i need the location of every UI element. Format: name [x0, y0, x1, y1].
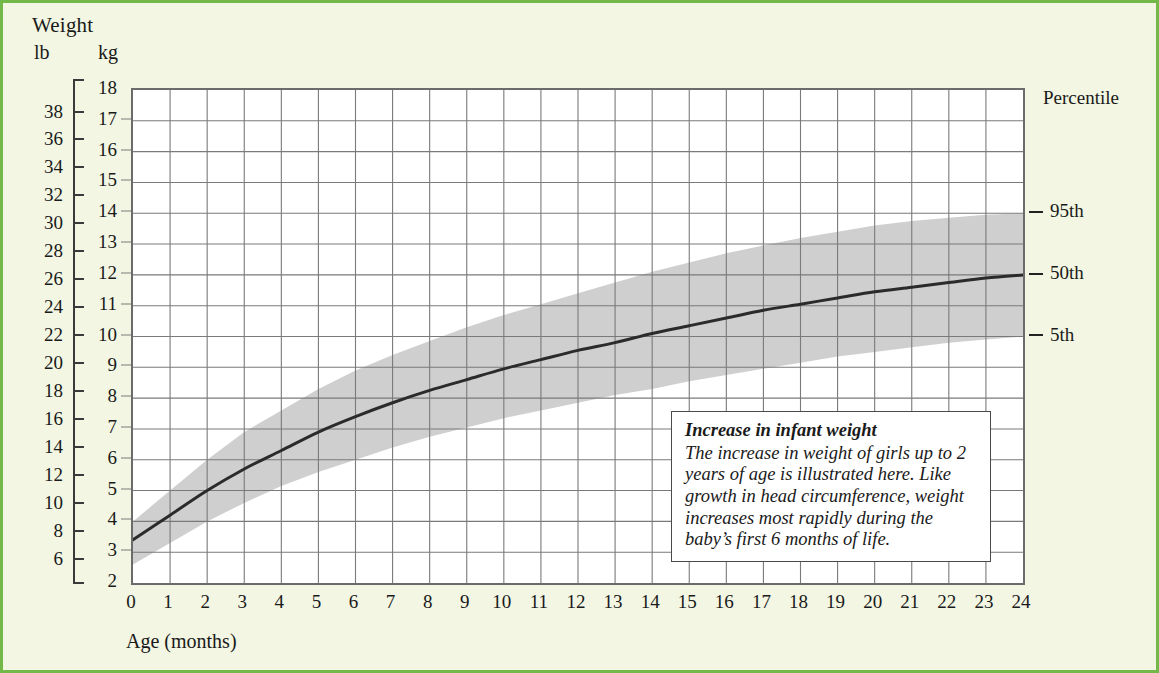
x-tick-label: 2: [188, 591, 222, 613]
kg-tick-label: 2: [91, 570, 117, 592]
weight-axis-title: Weight: [32, 13, 93, 38]
x-tick-label: 13: [596, 591, 630, 613]
kg-axis-tick: [121, 149, 131, 150]
lb-tick-label: 22: [29, 324, 63, 346]
growth-chart-figure: Weight lb kg Percentile 3836343230282624…: [0, 0, 1159, 673]
kg-tick-label: 17: [91, 108, 117, 130]
percentile-axis-title: Percentile: [1043, 87, 1119, 109]
x-tick-label: 11: [522, 591, 556, 613]
kg-tick-label: 5: [91, 478, 117, 500]
kg-tick-label: 16: [91, 139, 117, 161]
lb-tick-label: 30: [29, 212, 63, 234]
lb-axis-tick: [73, 530, 84, 532]
lb-tick-label: 26: [29, 268, 63, 290]
kg-tick-label: 7: [91, 416, 117, 438]
percentile-dash-icon: [1029, 211, 1043, 213]
x-tick-label: 18: [782, 591, 816, 613]
lb-axis-tick: [73, 418, 84, 420]
kg-tick-label: 15: [91, 169, 117, 191]
lb-axis-tick: [73, 502, 84, 504]
lb-tick-label: 12: [29, 464, 63, 486]
x-axis-title: Age (months): [126, 630, 237, 653]
x-tick-label: 17: [744, 591, 778, 613]
lb-axis-tick: [73, 111, 84, 113]
percentile-dash-icon: [1029, 334, 1043, 336]
x-tick-label: 5: [299, 591, 333, 613]
kg-axis-tick: [121, 272, 131, 273]
caption-box: Increase in infant weight The increase i…: [671, 411, 991, 562]
x-tick-label: 1: [151, 591, 185, 613]
kg-axis-tick: [121, 211, 131, 212]
lb-tick-label: 6: [29, 548, 63, 570]
kg-axis-tick: [121, 457, 131, 458]
x-tick-label: 0: [114, 591, 148, 613]
x-tick-label: 21: [893, 591, 927, 613]
lb-tick-label: 20: [29, 352, 63, 374]
kg-tick-label: 3: [91, 539, 117, 561]
kg-tick-label: 8: [91, 385, 117, 407]
percentile-dash-icon: [1029, 273, 1043, 275]
kg-tick-label: 4: [91, 508, 117, 530]
x-tick-label: 19: [819, 591, 853, 613]
kg-axis-tick: [121, 334, 131, 335]
percentile-marker-95th: 95th: [1029, 200, 1084, 222]
lb-tick-label: 24: [29, 296, 63, 318]
kg-axis-tick: [121, 426, 131, 427]
percentile-label: 95th: [1050, 200, 1084, 221]
kg-tick-label: 9: [91, 354, 117, 376]
lb-tick-label: 34: [29, 156, 63, 178]
lb-axis-spine: [73, 80, 75, 583]
lb-axis-tick: [73, 446, 84, 448]
lb-axis-tick: [73, 390, 84, 392]
percentile-label: 5th: [1050, 324, 1074, 345]
kg-tick-label: 13: [91, 231, 117, 253]
x-tick-label: 20: [856, 591, 890, 613]
x-tick-label: 3: [225, 591, 259, 613]
lb-tick-label: 32: [29, 184, 63, 206]
lb-tick-label: 36: [29, 128, 63, 150]
kg-axis-tick: [121, 519, 131, 520]
lb-axis-tick: [73, 250, 84, 252]
lb-axis-tick: [73, 194, 84, 196]
kg-axis-tick: [121, 303, 131, 304]
lb-axis-endcap: [73, 79, 84, 81]
lb-axis-tick: [73, 474, 84, 476]
lb-tick-label: 8: [29, 520, 63, 542]
lb-axis-tick: [73, 222, 84, 224]
kg-tick-label: 18: [91, 77, 117, 99]
kg-tick-label: 14: [91, 200, 117, 222]
lb-axis-endcap: [73, 582, 84, 584]
x-tick-label: 14: [633, 591, 667, 613]
lb-tick-label: 16: [29, 408, 63, 430]
lb-axis-tick: [73, 558, 84, 560]
kg-tick-label: 11: [91, 293, 117, 315]
lb-axis-tick: [73, 166, 84, 168]
x-tick-label: 8: [411, 591, 445, 613]
lb-tick-label: 14: [29, 436, 63, 458]
kg-axis-tick: [121, 242, 131, 243]
lb-axis-tick: [73, 306, 84, 308]
x-tick-label: 9: [448, 591, 482, 613]
caption-body: The increase in weight of girls up to 2 …: [685, 443, 978, 551]
x-tick-label: 10: [485, 591, 519, 613]
lb-tick-label: 10: [29, 492, 63, 514]
unit-label-lb: lb: [34, 41, 50, 64]
x-tick-label: 7: [374, 591, 408, 613]
lb-axis-tick: [73, 138, 84, 140]
x-tick-label: 12: [559, 591, 593, 613]
kg-axis-tick: [121, 488, 131, 489]
kg-axis-tick: [121, 365, 131, 366]
percentile-marker-50th: 50th: [1029, 262, 1084, 284]
lb-axis-tick: [73, 278, 84, 280]
percentile-label: 50th: [1050, 262, 1084, 283]
kg-tick-label: 12: [91, 262, 117, 284]
x-tick-label: 22: [930, 591, 964, 613]
caption-title: Increase in infant weight: [685, 420, 978, 442]
kg-axis-tick: [121, 550, 131, 551]
kg-tick-label: 6: [91, 447, 117, 469]
x-tick-label: 15: [670, 591, 704, 613]
x-tick-label: 23: [967, 591, 1001, 613]
lb-tick-label: 18: [29, 380, 63, 402]
kg-axis-tick: [121, 180, 131, 181]
kg-tick-label: 10: [91, 324, 117, 346]
